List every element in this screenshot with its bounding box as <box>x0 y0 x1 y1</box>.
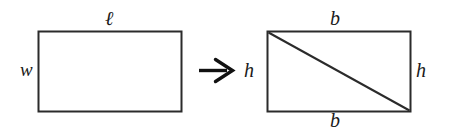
right-rectangle-base-bottom-label: b <box>330 110 340 130</box>
left-rectangle-width-label: w <box>20 60 33 79</box>
geometry-figure: ℓ w b h h b <box>0 0 452 131</box>
left-rectangle-outline <box>39 32 182 112</box>
right-rectangle-height-left-label: h <box>244 60 254 80</box>
arrow-right-icon <box>199 60 233 82</box>
left-rectangle-length-label: ℓ <box>105 8 113 28</box>
right-rectangle-height-right-label: h <box>416 60 426 80</box>
right-rectangle-base-top-label: b <box>330 8 340 28</box>
figure-canvas <box>0 0 452 131</box>
